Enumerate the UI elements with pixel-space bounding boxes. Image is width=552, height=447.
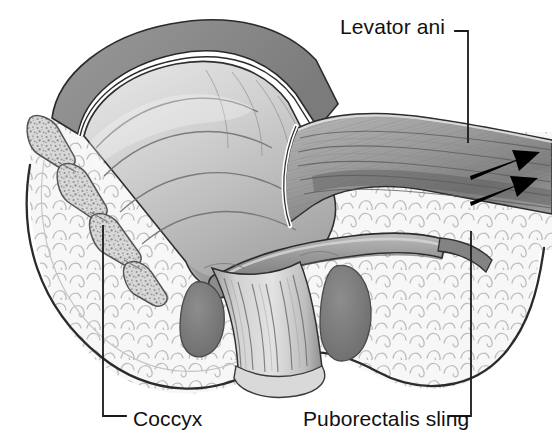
label-puborectalis-sling: Puborectalis sling (303, 408, 469, 429)
label-coccyx: Coccyx (133, 408, 202, 429)
label-levator-ani: Levator ani (340, 16, 445, 37)
anatomical-illustration (0, 0, 552, 447)
